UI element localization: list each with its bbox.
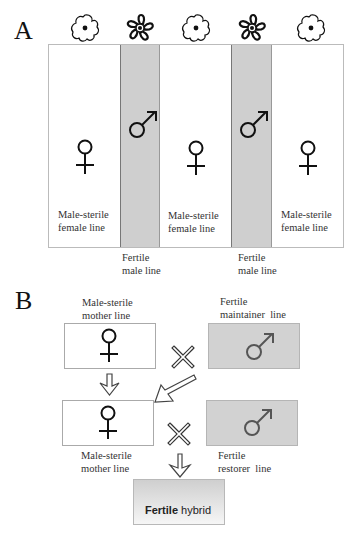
female-symbol-icon [187, 142, 205, 176]
diagonal-arrow-icon [155, 375, 196, 402]
female-symbol-icon [76, 141, 94, 175]
label-line: Fertile [122, 251, 161, 264]
label-line: male line [122, 264, 161, 277]
label-line: Male-sterile [58, 208, 109, 221]
cross-icon [174, 348, 192, 366]
strip-label: Male-sterile female line [281, 208, 332, 234]
male-symbol-icon [247, 334, 273, 359]
label-line: male line [238, 264, 277, 277]
strip-label: Male-sterile female line [168, 209, 219, 235]
label-line: female line [281, 221, 332, 234]
strip-label: Male-sterile female line [58, 208, 109, 234]
panel-b-graphics [0, 280, 349, 545]
male-symbol-icon [241, 112, 267, 137]
down-arrow-icon [170, 454, 190, 477]
strip-label: Fertile male line [122, 251, 161, 277]
label-line: Fertile [238, 251, 277, 264]
strip-label: Fertile male line [238, 251, 277, 277]
label-line: female line [58, 221, 109, 234]
male-symbol-icon [245, 410, 271, 435]
label-line: female line [168, 222, 219, 235]
female-symbol-icon [299, 142, 317, 176]
cross-icon [170, 425, 188, 443]
female-symbol-icon [99, 407, 117, 440]
down-arrow-icon [100, 374, 119, 395]
male-symbol-icon [130, 112, 156, 137]
label-line: Male-sterile [281, 208, 332, 221]
female-symbol-icon [100, 330, 118, 363]
label-line: Male-sterile [168, 209, 219, 222]
